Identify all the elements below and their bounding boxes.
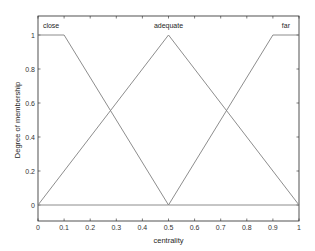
x-tick-label: 0.5	[164, 224, 174, 231]
membership-function-chart: 00.10.20.30.40.50.60.70.80.91 00.20.40.6…	[0, 0, 315, 251]
x-tick-label: 1	[297, 224, 301, 231]
plot-area	[38, 16, 299, 221]
x-tick-label: 0.4	[138, 224, 148, 231]
x-tick-label: 0	[36, 224, 40, 231]
y-tick-label: 1	[31, 32, 35, 39]
x-tick-label: 0.8	[242, 224, 252, 231]
x-tick-label: 0.9	[268, 224, 278, 231]
label-close: close	[43, 22, 59, 29]
x-tick-label: 0.3	[111, 224, 121, 231]
label-far: far	[282, 22, 291, 29]
x-tick-label: 0.6	[190, 224, 200, 231]
label-adequate: adequate	[154, 22, 183, 30]
x-tick-label: 0.1	[59, 224, 69, 231]
y-tick-label: 0.6	[25, 100, 35, 107]
y-tick-label: 0.2	[25, 168, 35, 175]
x-tick-label: 0.7	[216, 224, 226, 231]
y-tick-label: 0	[31, 202, 35, 209]
y-tick-label: 0.8	[25, 66, 35, 73]
x-tick-label: 0.2	[85, 224, 95, 231]
x-axis-label: centrality	[153, 236, 183, 245]
y-tick-label: 0.4	[25, 134, 35, 141]
y-axis-label: Degree of membership	[13, 82, 22, 158]
